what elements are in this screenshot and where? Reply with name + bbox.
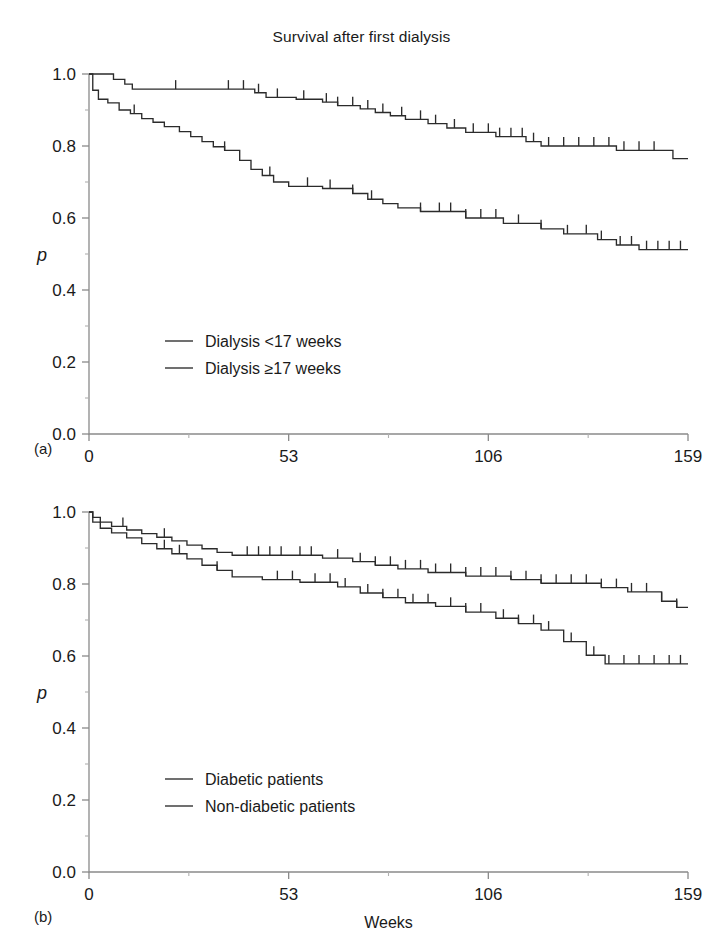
y-tick-label: 0.4 — [52, 719, 76, 738]
survival-curve-2 — [89, 512, 688, 664]
legend-label-2: Dialysis ≥17 weeks — [205, 360, 341, 377]
legend-label-1: Dialysis <17 weeks — [205, 333, 342, 350]
figure-kaplan-meier-survival: Survival after first dialysis (a) 0.00.2… — [0, 0, 723, 943]
y-tick-label: 0.6 — [52, 209, 76, 228]
x-tick-label: 53 — [279, 885, 298, 904]
figure-title: Survival after first dialysis — [0, 28, 723, 46]
y-tick-label: 1.0 — [52, 65, 76, 84]
y-tick-label: 0.8 — [52, 575, 76, 594]
y-axis-label: p — [36, 245, 47, 265]
y-tick-label: 0.4 — [52, 281, 76, 300]
x-tick-label: 53 — [279, 447, 298, 466]
survival-curve-1 — [89, 512, 688, 607]
survival-curve-2 — [89, 74, 688, 250]
axis-lines — [89, 512, 688, 872]
y-tick-label: 0.2 — [52, 791, 76, 810]
y-tick-label: 0.0 — [52, 425, 76, 444]
legend-label-1: Diabetic patients — [205, 771, 323, 788]
y-tick-label: 0.0 — [52, 863, 76, 882]
x-tick-label: 0 — [84, 447, 93, 466]
survival-curve-1 — [89, 74, 688, 159]
y-tick-label: 0.8 — [52, 137, 76, 156]
chart-b-plot-area: 0.00.20.40.60.81.0053106159pWeeksDiabeti… — [0, 478, 723, 943]
y-tick-label: 1.0 — [52, 503, 76, 522]
legend-label-2: Non-diabetic patients — [205, 798, 355, 815]
x-tick-label: 0 — [84, 885, 93, 904]
x-tick-label: 159 — [674, 447, 702, 466]
chart-a-plot-area: 0.00.20.40.60.81.0053106159pWeeksDialysi… — [0, 0, 723, 478]
panel-b-tag: (b) — [34, 908, 52, 925]
y-axis-label: p — [36, 683, 47, 703]
panel-b: (b) 0.00.20.40.60.81.0053106159pWeeksDia… — [0, 478, 723, 943]
y-tick-label: 0.2 — [52, 353, 76, 372]
panel-a: Survival after first dialysis (a) 0.00.2… — [0, 0, 723, 478]
x-tick-label: 159 — [674, 885, 702, 904]
x-axis-label: Weeks — [364, 914, 413, 931]
panel-a-tag: (a) — [34, 440, 52, 457]
x-tick-label: 106 — [474, 447, 502, 466]
y-tick-label: 0.6 — [52, 647, 76, 666]
x-tick-label: 106 — [474, 885, 502, 904]
